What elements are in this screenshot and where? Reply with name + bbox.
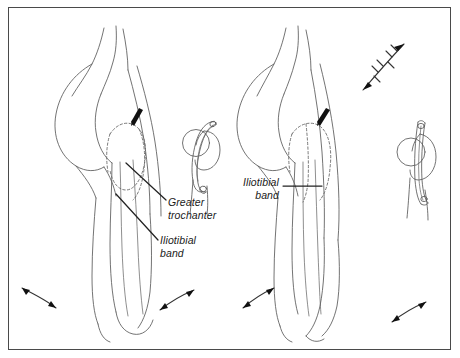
motion-arrow-left-b [160, 290, 194, 310]
motion-arrow-right-a [243, 288, 274, 308]
motion-arrow-left-a [22, 288, 56, 308]
label-greater-trochanter: Greater trochanter [168, 196, 216, 221]
label-iliotibial-band-left: Iliotibial band [160, 234, 196, 259]
motion-arrow-right-top [363, 44, 404, 90]
illustration-figure: .ln{fill:none;stroke:#5a5a5a;stroke-widt… [0, 0, 460, 358]
left-panel-drawing [22, 26, 220, 342]
motion-arrow-right-b [392, 302, 426, 322]
trochanter-band-inset-right [397, 121, 436, 220]
label-iliotibial-band-right: Iliotibial band [221, 176, 279, 201]
